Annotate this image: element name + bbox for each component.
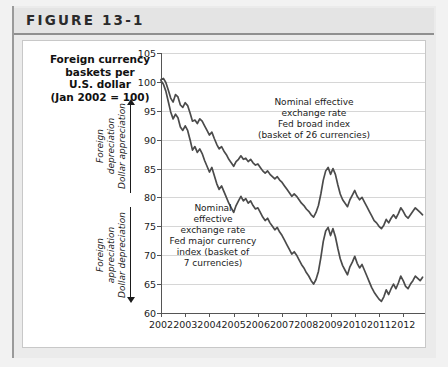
- y-tick-label: 65: [144, 279, 156, 290]
- arrow-shaft-up-icon: [130, 105, 131, 193]
- x-tick-label: 2005: [222, 319, 246, 330]
- annotation-major-line-4: Fed major currency: [153, 236, 273, 247]
- x-tick-label: 2006: [246, 319, 270, 330]
- chart-card: Foreign currency baskets per U.S. dollar…: [22, 40, 426, 348]
- direction-upper-line-1: Foreign: [95, 99, 105, 193]
- annotation-major-line-2: effective: [153, 214, 273, 225]
- annotation-broad-line-3: Fed broad index: [239, 119, 389, 130]
- x-tick-label: 2003: [173, 319, 197, 330]
- direction-lower-line-2: appreciation: [106, 207, 116, 303]
- arrow-head-down-icon: [127, 297, 135, 303]
- annotation-broad-line-1: Nominal effective: [239, 97, 389, 108]
- annotation-major-line-3: exchange rate: [153, 225, 273, 236]
- annotation-major-line-6: 7 currencies): [153, 258, 273, 269]
- x-tick-label: 2002: [149, 319, 173, 330]
- x-tick-label: 2012: [391, 319, 415, 330]
- arrow-shaft-down-icon: [130, 207, 131, 297]
- annotation-broad-index: Nominal effective exchange rate Fed broa…: [239, 97, 389, 141]
- annotation-broad-line-2: exchange rate: [239, 108, 389, 119]
- y-tick-label: 85: [144, 163, 156, 174]
- figure-number-label: FIGURE 13-1: [26, 12, 145, 28]
- y-tick-label: 60: [144, 308, 156, 319]
- arrow-head-up-icon: [127, 99, 135, 105]
- x-tick-label: 2008: [294, 319, 318, 330]
- annotation-major-line-5: index (basket of: [153, 247, 273, 258]
- x-tick-label: 2007: [270, 319, 294, 330]
- x-tick-label: 2011: [367, 319, 391, 330]
- direction-lower-line-3: Dollar depreciation: [117, 207, 127, 303]
- x-axis-line: [161, 313, 425, 314]
- direction-upper-line-2: depreciation: [106, 99, 116, 193]
- annotation-major-line-1: Nominal: [153, 203, 273, 214]
- y-tick-label: 100: [138, 76, 156, 87]
- y-tick-label: 80: [144, 192, 156, 203]
- y-tick-label: 95: [144, 105, 156, 116]
- figure-root: FIGURE 13-1 Foreign currency baskets per…: [0, 0, 448, 367]
- series-lines: [161, 53, 425, 313]
- annotation-major-currency-index: Nominal effective exchange rate Fed majo…: [153, 203, 273, 269]
- y-tick-label: 90: [144, 134, 156, 145]
- plot-area: 6065707580859095100105 20022003200420052…: [161, 53, 425, 313]
- figure-header-rule: [14, 33, 434, 35]
- y-tick-label: 105: [138, 48, 156, 59]
- annotation-broad-line-4: (basket of 26 currencies): [239, 130, 389, 141]
- direction-upper-line-3: Dollar appreciation: [117, 99, 127, 193]
- x-tick-label: 2004: [197, 319, 221, 330]
- direction-lower-line-1: Foreign: [95, 207, 105, 303]
- x-tick-label: 2009: [318, 319, 342, 330]
- x-tick-label: 2010: [343, 319, 367, 330]
